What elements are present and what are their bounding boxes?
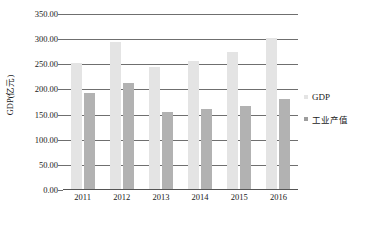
- bar-gdp[interactable]: [71, 63, 82, 190]
- legend-swatch-icon: [304, 95, 308, 99]
- x-axis-line: [63, 189, 298, 190]
- chart-legend: GDP工业产值: [304, 92, 366, 136]
- x-axis-tick-label: 2013: [141, 192, 180, 202]
- bar-industry[interactable]: [279, 99, 290, 190]
- bar-group: [220, 14, 259, 190]
- legend-label: 工业产值: [312, 113, 348, 125]
- x-axis-tick-label: 2012: [102, 192, 141, 202]
- y-axis-tick-mark: [58, 89, 63, 90]
- y-axis-tick-mark: [58, 140, 63, 141]
- bar-group: [181, 14, 220, 190]
- bar-group: [141, 14, 180, 190]
- bar-gdp[interactable]: [266, 38, 277, 190]
- bar-group: [63, 14, 102, 190]
- y-axis-tick-label: 0.00: [14, 186, 58, 195]
- bars-layer: [63, 14, 298, 190]
- y-axis-tick-label: 100.00: [14, 135, 58, 144]
- bar-industry[interactable]: [240, 106, 251, 190]
- bar-group: [259, 14, 298, 190]
- y-axis-tick-mark: [58, 165, 63, 166]
- x-axis-tick-label: 2014: [181, 192, 220, 202]
- y-axis-tick-mark: [58, 14, 63, 15]
- y-axis-tick-labels: 0.0050.00100.00150.00200.00250.00300.003…: [14, 14, 58, 190]
- legend-entry[interactable]: 工业产值: [304, 113, 366, 125]
- y-axis-tick-mark: [58, 115, 63, 116]
- plot-area: [63, 14, 298, 190]
- y-axis-tick-label: 300.00: [14, 35, 58, 44]
- y-axis-tick-mark: [58, 39, 63, 40]
- x-axis-tick-labels: 201120122013201420152016: [63, 192, 298, 202]
- y-axis-tick-label: 150.00: [14, 110, 58, 119]
- bar-industry[interactable]: [84, 93, 95, 190]
- legend-label: GDP: [312, 92, 330, 102]
- bar-industry[interactable]: [123, 83, 134, 190]
- y-axis-tick-mark: [58, 64, 63, 65]
- y-axis-tick-label: 50.00: [14, 160, 58, 169]
- bar-industry[interactable]: [162, 112, 173, 190]
- x-axis-tick-label: 2016: [259, 192, 298, 202]
- bar-gdp[interactable]: [188, 61, 199, 190]
- bar-group: [102, 14, 141, 190]
- x-axis-tick-label: 2011: [63, 192, 102, 202]
- legend-entry[interactable]: GDP: [304, 92, 366, 102]
- bar-chart: GDP(亿元) 0.0050.00100.00150.00200.00250.0…: [0, 0, 368, 227]
- bar-industry[interactable]: [201, 109, 212, 190]
- legend-swatch-icon: [304, 117, 308, 121]
- x-axis-tick-label: 2015: [220, 192, 259, 202]
- bar-gdp[interactable]: [110, 42, 121, 190]
- y-axis-tick-label: 250.00: [14, 60, 58, 69]
- y-axis-tick-label: 200.00: [14, 85, 58, 94]
- y-axis-tick-mark: [58, 190, 63, 191]
- bar-gdp[interactable]: [149, 67, 160, 190]
- bar-gdp[interactable]: [227, 52, 238, 190]
- y-axis-tick-label: 350.00: [14, 10, 58, 19]
